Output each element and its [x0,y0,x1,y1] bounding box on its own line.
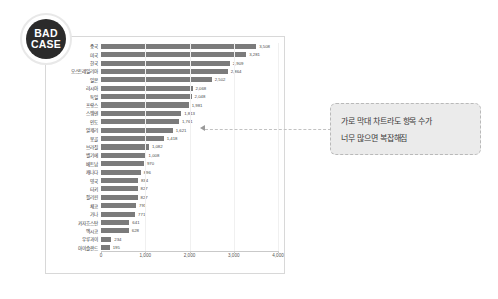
x-axis-tick-mark [190,251,191,253]
bar-value-label: 771 [138,212,145,217]
bar [101,136,164,141]
bar-row: 아이슬란드195 [46,244,278,251]
bar-value-label: 827 [141,186,148,191]
bar-category-label: 스웨덴 [46,110,101,116]
bar-category-label: 벨기에 [46,152,101,158]
x-axis-tick-label: 2,000 [184,253,196,258]
bar-value-label: 1,082 [152,144,163,149]
callout-line-1: 가로 막대 차트라도 항목 수가 [341,115,432,126]
bar-row: 러시아2,068 [46,85,278,92]
bar [101,144,149,149]
bar-row: 브라질1,082 [46,144,278,151]
bar-value-label: 628 [132,228,139,233]
bar-value-label: 827 [141,195,148,200]
bar-row-list: 중국3,508미국3,281한국2,909오스트레일리아2,864일본2,502… [46,43,278,251]
callout-line-2: 너무 많으면 복잡해짐 [341,132,407,143]
bar [101,61,230,66]
bar-row: 일본2,502 [46,77,278,84]
bar-category-label: 멕시코 [46,228,101,234]
bar [101,228,129,233]
bar-row: 알제리1,621 [46,127,278,134]
x-axis-tick-label: 3,000 [228,253,240,258]
x-axis-tick-mark [278,251,279,253]
bar [101,77,212,82]
bar [101,245,110,250]
bar-row: 벨기에1,008 [46,152,278,159]
bar [101,69,228,74]
bar-row: 체코791 [46,202,278,209]
bar-value-label: 1,418 [167,136,178,141]
bar [101,52,246,57]
bar-category-label: 오스트레일리아 [46,68,101,74]
bar [101,86,193,91]
bar-value-label: 3,281 [249,52,260,57]
bar-category-label: 베트남 [46,161,101,167]
bar-row: 스웨덴1,813 [46,110,278,117]
bar-value-label: 2,068 [196,86,207,91]
x-axis-tick-mark [101,251,102,253]
bar-value-label: 1,621 [176,128,187,133]
bar-row: 캐나다896 [46,169,278,176]
bar-row: 멕시코628 [46,228,278,235]
bar-row: 프랑스1,981 [46,102,278,109]
bad-case-badge: BAD CASE [20,13,72,65]
bar-category-label: 아이슬란드 [46,245,101,251]
bar [101,170,141,175]
bar [101,220,129,225]
bar [101,111,181,116]
bar-category-label: 프랑스 [46,102,101,108]
callout-box: 가로 막대 차트라도 항목 수가 너무 많으면 복잡해짐 [330,103,481,155]
bar-category-label: 브라질 [46,144,101,150]
bar-row: 한국2,909 [46,60,278,67]
bar [101,186,138,191]
bar-value-label: 1,008 [149,153,160,158]
bar-row: 우루과이234 [46,236,278,243]
x-axis-tick-label: 1,000 [140,253,152,258]
bar-row: 터키827 [46,186,278,193]
bar-value-label: 2,048 [195,94,206,99]
bar [101,161,144,166]
x-axis-tick-label: 4,000 [272,253,284,258]
bar [101,128,173,133]
bar-value-label: 234 [114,237,121,242]
bar-category-label: 체코 [46,203,101,209]
bar-category-label: 몽골 [46,136,101,142]
bar-value-label: 1,761 [182,119,193,124]
bar [101,119,179,124]
bar-row: 카자흐스탄641 [46,219,278,226]
bar [101,212,135,217]
gridline [145,43,146,251]
bar-value-label: 2,864 [231,69,242,74]
callout-arrow-icon [200,125,205,131]
bar-value-label: 1,981 [192,103,203,108]
bar-category-label: 인도 [46,119,101,125]
bar-row: 오스트레일리아2,864 [46,68,278,75]
bar-value-label: 2,502 [215,77,226,82]
bar-category-label: 러시아 [46,85,101,91]
bar-value-label: 195 [113,245,120,250]
x-axis-tick-label: 0 [100,253,103,258]
bar-category-label: 알제리 [46,127,101,133]
gridline [190,43,191,251]
bar-row: 필리핀827 [46,194,278,201]
bar-row: 영국834 [46,177,278,184]
gridline [278,43,279,251]
bar-category-label: 독일 [46,94,101,100]
bar-category-label: 일본 [46,77,101,83]
bar-category-label: 가나 [46,211,101,217]
bar-value-label: 641 [132,220,139,225]
bar-row: 중국3,508 [46,43,278,50]
bar-row: 인도1,761 [46,119,278,126]
bar-value-label: 970 [147,161,154,166]
bar-category-label: 우루과이 [46,236,101,242]
bar-row: 독일2,048 [46,93,278,100]
slide-canvas: BAD CASE 중국3,508미국3,281한국2,909오스트레일리아2,8… [0,0,498,299]
bar [101,203,136,208]
bar [101,178,138,183]
callout-connector-line [205,129,331,130]
bar-category-label: 카자흐스탄 [46,220,101,226]
bar-row: 미국3,281 [46,51,278,58]
bar-category-label: 필리핀 [46,194,101,200]
bar-row: 베트남970 [46,160,278,167]
bar [101,237,111,242]
